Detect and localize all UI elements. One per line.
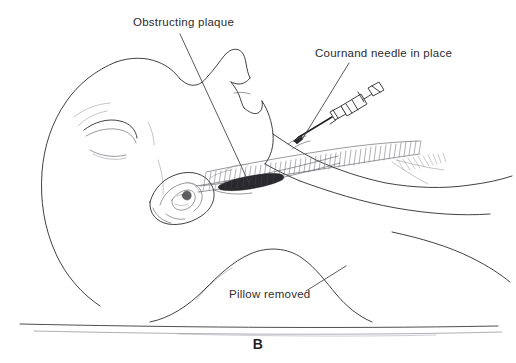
cheek-line xyxy=(158,160,163,194)
leader-cournand-needle xyxy=(303,63,349,138)
brow-line xyxy=(74,103,110,117)
callout-obstructing-plaque: Obstructing plaque xyxy=(133,17,234,29)
leader-pillow-removed xyxy=(306,266,346,291)
leader-obstructing-plaque xyxy=(180,34,249,183)
leader-lines xyxy=(180,34,349,291)
operating-table xyxy=(20,324,502,336)
callout-pillow-removed: Pillow removed xyxy=(229,289,310,301)
eye-closed xyxy=(78,111,137,159)
shoulder-contour xyxy=(150,249,372,322)
neck-and-shoulder xyxy=(265,134,512,282)
cournand-needle-assembly xyxy=(288,82,384,149)
panel-letter: B xyxy=(0,337,516,351)
head-profile xyxy=(42,49,274,306)
callout-cournand-needle: Cournand needle in place xyxy=(315,48,452,60)
carotid-plaque xyxy=(214,174,284,194)
nasion-line xyxy=(148,122,154,145)
ear-auricle xyxy=(150,172,214,224)
medical-illustration-figure: Obstructing plaque Cournand needle in pl… xyxy=(0,0,516,363)
